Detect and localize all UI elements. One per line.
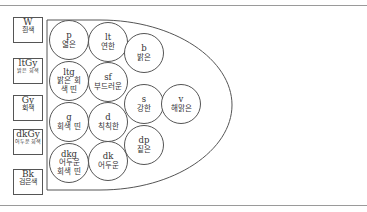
- tone-name: 짙은: [137, 146, 151, 154]
- tone-light: lt 연한: [88, 22, 128, 62]
- tone-name: 어두운: [98, 162, 119, 170]
- tone-bright: b 밝은: [124, 33, 164, 73]
- tone-name: 밝은: [137, 54, 151, 62]
- achromatic-light-gray: ltGy 밝은 회색: [13, 58, 43, 84]
- achromatic-dark-gray: dkGy 어두운 회색: [13, 129, 43, 155]
- tone-name: 엷은: [62, 41, 76, 49]
- tone-name: 회색 띤: [57, 123, 80, 131]
- tone-dark-grayish: dkg 어두운 회색 띤: [49, 143, 89, 183]
- tone-name: 검은색: [14, 179, 42, 186]
- tone-pale: p 엷은: [49, 20, 89, 60]
- tone-name: 밝은 회색: [14, 68, 42, 73]
- tone-soft: sf 부드러운: [88, 62, 128, 102]
- tone-name: 어두운 회색: [14, 139, 42, 144]
- achromatic-black: Bk 검은색: [13, 169, 43, 195]
- tone-name: 강한: [137, 105, 151, 113]
- tone-name: 부드러운: [94, 83, 122, 91]
- achromatic-white: W 흰색: [13, 17, 43, 43]
- tone-name: 흰색: [14, 27, 42, 34]
- tone-dull: d 칙칙한: [88, 102, 128, 142]
- tone-name: 칙칙한: [98, 123, 119, 131]
- tone-name: 밝은 회색 띤: [54, 77, 84, 94]
- tone-grayish: g 회색 띤: [49, 102, 89, 142]
- tone-deep: dp 짙은: [124, 125, 164, 165]
- tone-dark: dk 어두운: [88, 141, 128, 181]
- tone-name: 회색: [14, 105, 42, 112]
- tone-name: 연한: [101, 43, 115, 51]
- tone-name: 어두운 회색 띤: [54, 159, 84, 176]
- tone-name: 해맑은: [171, 105, 192, 113]
- tone-light-grayish: ltg 밝은 회색 띤: [49, 61, 89, 101]
- tone-strong: s 강한: [124, 84, 164, 124]
- achromatic-gray: Gy 회색: [13, 95, 43, 121]
- tone-vivid: v 해맑은: [161, 84, 201, 124]
